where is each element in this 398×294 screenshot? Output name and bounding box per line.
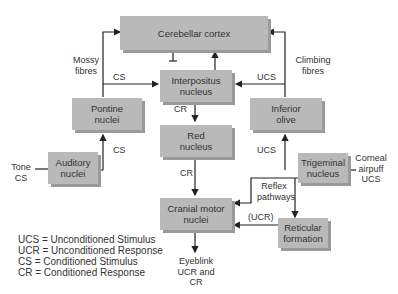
label-cr-1: CR	[174, 104, 187, 115]
label-cs-1: CS	[113, 72, 126, 83]
box-cranial-motor-nuclei: Cranial motor nuclei	[160, 198, 232, 230]
label-ucs-1: UCS	[257, 72, 276, 83]
box-cerebellar-cortex: Cerebellar cortex	[120, 16, 268, 50]
box-reticular-formation: Reticular formation	[278, 218, 328, 248]
box-label: Reticular formation	[279, 222, 327, 244]
legend: UCS = Unconditioned Stimulus UCR = Uncon…	[18, 234, 163, 278]
label-climbing-fibres: Climbing fibres	[295, 55, 331, 76]
label-reflex-pathways: Reflex pathways	[257, 181, 291, 202]
legend-item: UCR = Unconditioned Response	[18, 245, 163, 256]
label-mossy-fibres: Mossy fibres	[72, 55, 100, 76]
label-corneal-airpuff: Corneal airpuff UCS	[353, 153, 389, 185]
box-interpositus-nucleus: Interpositus nucleus	[160, 70, 232, 102]
box-label: Inferior olive	[261, 103, 311, 125]
box-red-nucleus: Red nucleus	[160, 125, 232, 157]
box-label: Red nucleus	[171, 130, 221, 152]
box-label: Auditory nuclei	[50, 157, 96, 179]
box-label: Pontine nuclei	[82, 103, 132, 125]
label-eyeblink: Eyeblink UCR and CR	[170, 256, 222, 288]
box-pontine-nuclei: Pontine nuclei	[72, 98, 142, 130]
legend-item: CS = Conditioned Stimulus	[18, 256, 163, 267]
label-ucs-2: UCS	[257, 145, 276, 156]
box-label: Interpositus nucleus	[166, 75, 226, 97]
box-auditory-nuclei: Auditory nuclei	[48, 152, 98, 184]
box-inferior-olive: Inferior olive	[250, 98, 322, 130]
box-trigeminal-nucleus: Trigeminal nucleus	[298, 153, 348, 183]
label-ucr: (UCR)	[248, 212, 274, 223]
label-cr-2: CR	[180, 168, 193, 179]
legend-item: CR = Conditioned Response	[18, 267, 163, 278]
box-label: Cranial motor nuclei	[162, 203, 230, 225]
legend-item: UCS = Unconditioned Stimulus	[18, 234, 163, 245]
box-label: Cerebellar cortex	[158, 28, 230, 39]
box-label: Trigeminal nucleus	[299, 157, 347, 179]
label-tone-cs: Tone CS	[10, 162, 32, 183]
label-cs-2: CS	[113, 145, 126, 156]
